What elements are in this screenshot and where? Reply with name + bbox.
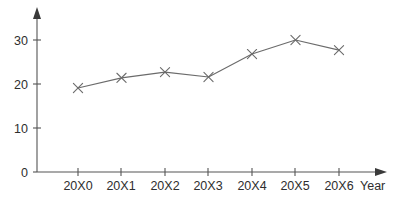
- y-tick-label-0: 0: [21, 166, 28, 180]
- data-point-marker: [247, 49, 256, 58]
- x-tick-label-20X3: 20X3: [193, 179, 222, 193]
- chart-canvas: 0 10 20 30 20X0 20X1 20X2 20X3 20X4 20X5…: [0, 0, 396, 211]
- y-axis-arrow-icon: [33, 7, 41, 19]
- data-point-marker: [291, 35, 300, 44]
- x-tick-label-20X4: 20X4: [237, 179, 266, 193]
- data-point-marker: [73, 83, 82, 92]
- y-tick-label-20: 20: [14, 78, 28, 92]
- y-tick-label-30: 30: [14, 34, 28, 48]
- x-axis-arrow-icon: [375, 168, 387, 176]
- x-tick-label-20X5: 20X5: [280, 179, 309, 193]
- x-tick-label-20X2: 20X2: [150, 179, 179, 193]
- x-axis-title: Year: [360, 179, 385, 193]
- x-tick-label-20X0: 20X0: [63, 179, 92, 193]
- x-tick-label-20X1: 20X1: [106, 179, 135, 193]
- line-chart: 0 10 20 30 20X0 20X1 20X2 20X3 20X4 20X5…: [0, 0, 396, 211]
- y-tick-label-10: 10: [14, 122, 28, 136]
- x-tick-label-20X6: 20X6: [324, 179, 353, 193]
- data-point-markers: [73, 35, 343, 92]
- data-point-marker: [334, 46, 343, 55]
- data-series-line: [78, 40, 339, 88]
